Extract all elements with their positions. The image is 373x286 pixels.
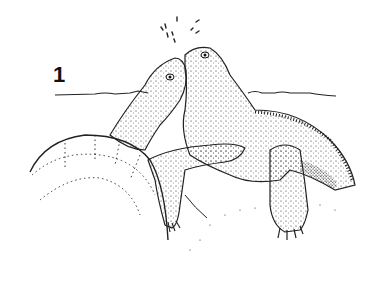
droplets (161, 17, 199, 42)
left-turtle-head (110, 58, 186, 150)
right-turtle (183, 47, 355, 190)
turtle-drawing (0, 0, 373, 286)
illustration: 1 (0, 0, 373, 286)
stipple-shadow (189, 204, 335, 250)
left-foreleg (148, 144, 245, 232)
left-shell (30, 135, 168, 240)
